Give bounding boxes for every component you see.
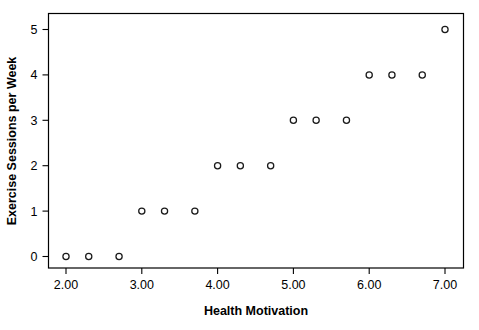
data-point <box>86 253 92 259</box>
data-point <box>116 253 122 259</box>
x-axis-title: Health Motivation <box>204 304 308 318</box>
x-tick-label: 3.00 <box>130 278 154 292</box>
y-tick-label: 4 <box>31 68 38 82</box>
data-point <box>161 208 167 214</box>
data-point <box>268 163 274 169</box>
y-axis-tick-labels: 012345 <box>31 23 38 264</box>
x-axis-tick-marks <box>66 268 445 274</box>
data-point <box>343 117 349 123</box>
y-tick-label: 1 <box>31 205 38 219</box>
data-point <box>63 253 69 259</box>
data-point <box>313 117 319 123</box>
y-tick-label: 2 <box>31 159 38 173</box>
x-tick-label: 4.00 <box>205 278 229 292</box>
x-tick-label: 2.00 <box>54 278 78 292</box>
data-point <box>290 117 296 123</box>
x-tick-label: 5.00 <box>281 278 305 292</box>
data-point <box>237 163 243 169</box>
scatter-plot-figure: 2.003.004.005.006.007.00 012345 Health M… <box>0 0 479 330</box>
x-tick-label: 6.00 <box>357 278 381 292</box>
y-tick-label: 5 <box>31 23 38 37</box>
y-axis-title: Exercise Sessions per Week <box>5 57 19 226</box>
data-point <box>192 208 198 214</box>
y-tick-label: 0 <box>31 250 38 264</box>
data-point-series <box>63 26 448 259</box>
plot-canvas: 2.003.004.005.006.007.00 012345 Health M… <box>0 0 479 330</box>
y-axis-tick-marks <box>43 30 49 257</box>
data-point <box>389 72 395 78</box>
plot-frame-border <box>49 14 464 269</box>
data-point <box>139 208 145 214</box>
data-point <box>215 163 221 169</box>
data-point <box>366 72 372 78</box>
y-tick-label: 3 <box>31 114 38 128</box>
x-axis-tick-labels: 2.003.004.005.006.007.00 <box>54 278 457 292</box>
x-tick-label: 7.00 <box>433 278 457 292</box>
data-point <box>419 72 425 78</box>
data-point <box>442 26 448 32</box>
